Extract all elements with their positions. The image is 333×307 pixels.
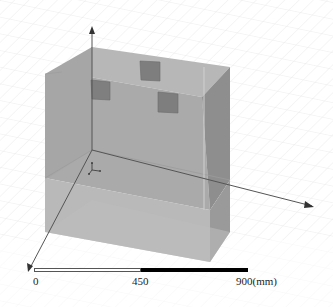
scale-bar-white-segment xyxy=(34,268,141,272)
small-cube-3[interactable] xyxy=(158,92,178,113)
air-box[interactable] xyxy=(45,47,230,262)
scale-label-0: 0 xyxy=(33,275,39,287)
scale-bar xyxy=(34,268,249,273)
scene-canvas xyxy=(0,0,333,307)
scale-label-900: 900(mm) xyxy=(236,275,277,287)
small-cube-2[interactable] xyxy=(140,61,160,81)
scale-label-450: 450 xyxy=(132,275,149,287)
3d-viewport[interactable]: 0 450 900(mm) xyxy=(0,0,333,307)
small-cube-1[interactable] xyxy=(91,80,110,100)
scale-bar-black-segment xyxy=(141,268,248,272)
